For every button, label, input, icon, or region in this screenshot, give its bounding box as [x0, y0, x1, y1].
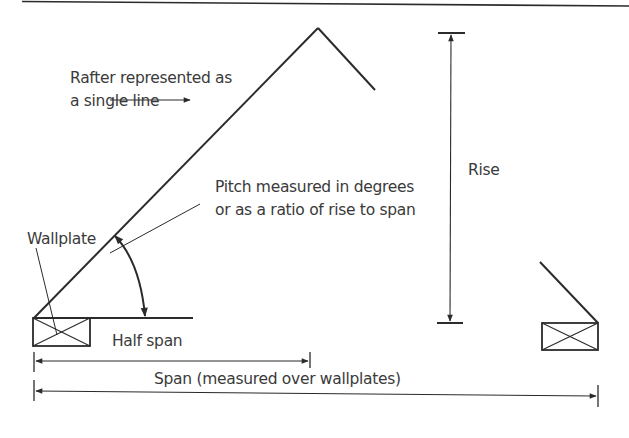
wallplate-label: Wallplate: [27, 230, 96, 248]
left-wallplate: [33, 318, 90, 346]
rise-dimension: [437, 33, 465, 323]
roof-pitch-diagram: Rafter represented as a single line Pitc…: [0, 0, 629, 438]
pitch-label-line2: or as a ratio of rise to span: [215, 201, 415, 219]
wallplate-leader-line: [36, 248, 57, 335]
top-rule-divider: [22, 2, 629, 7]
rafter-label-line2: a single line: [70, 92, 159, 110]
right-rafter-stub: [540, 262, 598, 323]
half-span-label: Half span: [112, 332, 182, 350]
rafter-label-line1: Rafter represented as: [70, 69, 232, 87]
half-span-dimension: [34, 352, 310, 372]
right-wallplate: [542, 323, 598, 350]
apex-right-rafter: [318, 28, 375, 90]
pitch-label-line1: Pitch measured in degrees: [215, 178, 414, 196]
span-label: Span (measured over wallplates): [154, 370, 401, 388]
rise-label: Rise: [468, 161, 500, 179]
